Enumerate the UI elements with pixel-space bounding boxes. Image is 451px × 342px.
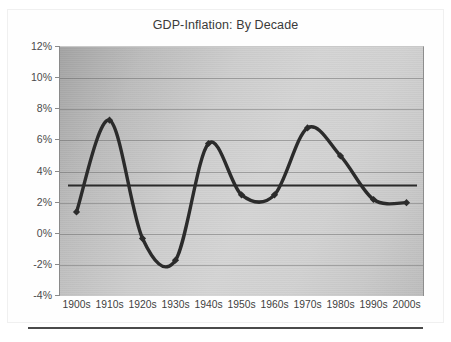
- plot-area: [60, 46, 424, 296]
- y-axis-label: 0%: [8, 227, 52, 239]
- data-point-marker: [403, 199, 410, 206]
- x-axis-label: 1910s: [95, 299, 123, 310]
- y-axis-label: 6%: [8, 133, 52, 145]
- y-axis-label: 12%: [8, 40, 52, 52]
- x-axis-label: 2000s: [392, 299, 420, 310]
- chart-figure: GDP-Inflation: By Decade 12%10%8%6%4%2%0…: [0, 0, 451, 342]
- y-axis-labels: 12%10%8%6%4%2%0%-2%-4%: [0, 0, 52, 342]
- y-axis-label: 4%: [8, 165, 52, 177]
- series-layer: [60, 47, 423, 296]
- y-axis-label: 10%: [8, 71, 52, 83]
- x-axis-label: 1960s: [260, 299, 288, 310]
- bottom-divider-rule: [28, 327, 423, 329]
- x-axis-label: 1940s: [194, 299, 222, 310]
- y-axis-label: 8%: [8, 102, 52, 114]
- x-axis-label: 1990s: [359, 299, 387, 310]
- x-axis-label: 1980s: [326, 299, 354, 310]
- chart-title: GDP-Inflation: By Decade: [0, 18, 451, 32]
- y-axis-label: 2%: [8, 196, 52, 208]
- x-axis-label: 1950s: [227, 299, 255, 310]
- x-axis-label: 1920s: [128, 299, 156, 310]
- x-axis-label: 1930s: [161, 299, 189, 310]
- y-axis-label: -4%: [8, 289, 52, 301]
- x-axis-label: 1970s: [293, 299, 321, 310]
- y-axis-label: -2%: [8, 258, 52, 270]
- x-axis-label: 1900s: [62, 299, 90, 310]
